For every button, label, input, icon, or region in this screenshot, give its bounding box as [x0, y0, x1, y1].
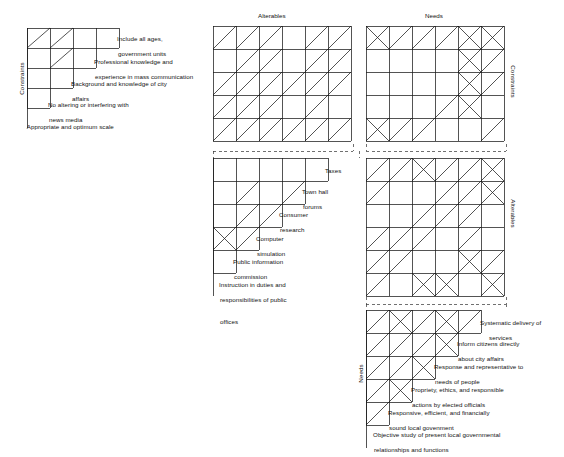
- cell-mark-diagonal-up: [458, 227, 481, 250]
- cell-mark-cross: [458, 72, 481, 95]
- axis-label-constraints-right: Constraints: [510, 52, 517, 112]
- cell-mark-diagonal-up: [435, 26, 458, 49]
- cell-mark-diagonal-up: [366, 356, 389, 379]
- cell-mark-diagonal-up: [305, 118, 328, 141]
- cell-mark-diagonal-up: [435, 158, 458, 181]
- matrix-alterables-constraints: [213, 26, 353, 143]
- column-title-needs: Needs: [425, 12, 443, 19]
- cell-mark-diagonal-up: [259, 95, 282, 118]
- cell-mark-diagonal-up: [389, 26, 412, 49]
- constraint-label-4: Appropriate and optimum scale: [20, 116, 114, 138]
- cell-mark-diagonal-up: [412, 26, 435, 49]
- cell-mark-diagonal-up: [50, 48, 73, 68]
- cell-mark-diagonal-up: [259, 72, 282, 95]
- cell-mark-diagonal-up: [389, 333, 412, 356]
- cell-mark-cross: [412, 273, 435, 296]
- cell-mark-cross: [389, 310, 412, 333]
- cell-mark-diagonal-up: [282, 118, 305, 141]
- cell-mark-cross: [435, 310, 458, 333]
- cell-mark-diagonal-up: [366, 333, 389, 356]
- cell-mark-diagonal-up: [305, 49, 328, 72]
- cell-mark-diagonal-up: [435, 181, 458, 204]
- cell-mark-diagonal-up: [481, 250, 504, 273]
- cell-mark-diagonal-up: [213, 118, 236, 141]
- cell-mark-cross: [458, 26, 481, 49]
- cell-mark-diagonal-up: [328, 49, 351, 72]
- cell-mark-diagonal-up: [481, 118, 504, 141]
- cell-mark-diagonal-up: [481, 49, 504, 72]
- cell-mark-diagonal-up: [305, 95, 328, 118]
- cell-mark-diagonal-up: [366, 310, 389, 333]
- cell-mark-diagonal-up: [366, 379, 389, 402]
- cell-mark-diagonal-up: [412, 118, 435, 141]
- cell-mark-diagonal-up: [481, 72, 504, 95]
- cell-mark-diagonal-up: [305, 72, 328, 95]
- cell-mark-diagonal-up: [236, 95, 259, 118]
- alterable-label-0: Taxes: [318, 160, 341, 182]
- cell-mark-diagonal-up: [435, 95, 458, 118]
- cell-mark-diagonal-up: [27, 28, 50, 48]
- cell-mark-diagonal-up: [328, 118, 351, 141]
- cell-mark-diagonal-up: [259, 26, 282, 49]
- cell-mark-diagonal-up: [236, 49, 259, 72]
- cell-mark-diagonal-up: [389, 118, 412, 141]
- cell-mark-cross: [481, 26, 504, 49]
- need-label-5: Objective study of present local governm…: [366, 424, 501, 457]
- axis-label-needs-left: Needs: [357, 349, 364, 399]
- cell-mark-cross: [435, 273, 458, 296]
- cell-mark-diagonal-up: [213, 72, 236, 95]
- cell-mark-cross: [366, 118, 389, 141]
- alterable-label-5: Instruction in duties and responsibiliti…: [212, 274, 287, 341]
- cell-mark-cross: [213, 227, 236, 250]
- cell-mark-diagonal-up: [435, 204, 458, 227]
- cell-mark-diagonal-up: [236, 118, 259, 141]
- axis-label-alterables-right: Alterables: [510, 184, 517, 244]
- cell-mark-cross: [481, 158, 504, 181]
- column-title-alterables: Alterables: [258, 12, 286, 19]
- cell-mark-diagonal-up: [50, 28, 73, 48]
- cell-mark-diagonal-up: [366, 273, 389, 296]
- matrix-grid-alterables-constraints: [213, 26, 353, 143]
- cell-mark-diagonal-up: [412, 227, 435, 250]
- cell-mark-diagonal-up: [328, 72, 351, 95]
- cell-mark-diagonal-up: [458, 181, 481, 204]
- cell-mark-cross: [458, 95, 481, 118]
- cell-mark-diagonal-up: [328, 26, 351, 49]
- cell-mark-diagonal-up: [412, 204, 435, 227]
- cell-mark-diagonal-up: [213, 95, 236, 118]
- cell-mark-diagonal-up: [366, 158, 389, 181]
- cell-mark-diagonal-up: [305, 26, 328, 49]
- cell-mark-diagonal-up: [236, 72, 259, 95]
- cell-mark-diagonal-up: [412, 333, 435, 356]
- matrix-needs-constraints: [366, 26, 506, 143]
- cell-mark-diagonal-up: [259, 49, 282, 72]
- cell-mark-diagonal-up: [366, 181, 389, 204]
- cell-mark-diagonal-up: [389, 158, 412, 181]
- cell-mark-diagonal-up: [366, 250, 389, 273]
- cell-mark-diagonal-up: [389, 227, 412, 250]
- cell-mark-diagonal-up: [389, 250, 412, 273]
- cell-mark-diagonal-up: [366, 227, 389, 250]
- cell-mark-diagonal-up: [458, 204, 481, 227]
- cell-mark-cross: [458, 49, 481, 72]
- cell-mark-diagonal-up: [236, 181, 259, 204]
- cell-mark-diagonal-up: [389, 356, 412, 379]
- cell-mark-cross: [366, 26, 389, 49]
- cell-mark-diagonal-up: [412, 310, 435, 333]
- cell-mark-diagonal-up: [236, 26, 259, 49]
- cell-mark-diagonal-up: [259, 118, 282, 141]
- cell-mark-diagonal-up: [213, 26, 236, 49]
- cell-mark-cross: [458, 250, 481, 273]
- cell-mark-cross: [412, 158, 435, 181]
- cell-mark-diagonal-up: [458, 158, 481, 181]
- matrix-needs-alterables: [366, 158, 506, 298]
- matrix-grid-needs-alterables: [366, 158, 506, 298]
- cell-mark-cross: [481, 273, 504, 296]
- cell-mark-diagonal-up: [236, 204, 259, 227]
- cell-mark-diagonal-up: [282, 72, 305, 95]
- axis-label-constraints-left: Constraints: [18, 49, 25, 109]
- cell-mark-cross: [481, 181, 504, 204]
- matrix-grid-needs-constraints: [366, 26, 506, 143]
